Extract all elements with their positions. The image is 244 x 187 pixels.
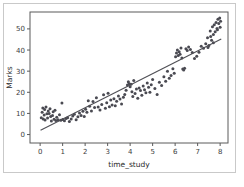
axes-frame <box>30 12 228 143</box>
y-axis-label: Marks <box>5 66 14 88</box>
data-point <box>146 81 149 84</box>
x-tick-label: 8 <box>218 148 222 156</box>
y-tick-label: 20 <box>16 89 25 97</box>
x-tick-labels: 012345678 <box>38 148 222 156</box>
data-point <box>183 67 186 70</box>
x-tick-label: 5 <box>150 148 154 156</box>
data-point <box>46 117 49 120</box>
data-point <box>43 108 46 111</box>
data-point <box>151 78 154 81</box>
data-point <box>193 57 196 60</box>
data-point <box>164 80 167 83</box>
data-point <box>209 35 212 38</box>
data-point <box>136 97 139 100</box>
data-point <box>109 98 112 101</box>
data-point <box>171 67 174 70</box>
data-point <box>115 100 118 103</box>
data-point <box>210 39 213 42</box>
data-point <box>87 99 90 102</box>
data-point <box>120 103 123 106</box>
y-tick-label: 40 <box>16 47 25 55</box>
data-point <box>206 36 209 39</box>
data-point <box>111 103 114 106</box>
data-point <box>219 26 222 29</box>
data-point <box>215 21 218 24</box>
data-point <box>53 109 56 112</box>
data-point <box>112 97 115 100</box>
data-point <box>58 113 61 116</box>
data-point <box>140 94 143 97</box>
data-point <box>147 86 150 89</box>
data-point <box>170 74 173 77</box>
data-point <box>166 70 169 73</box>
data-point <box>216 28 219 31</box>
data-point <box>92 100 95 103</box>
data-point <box>114 104 117 107</box>
data-point-group <box>40 16 222 123</box>
data-point <box>44 106 47 109</box>
regression-line-path <box>41 39 222 130</box>
data-point <box>80 114 83 117</box>
data-point <box>102 93 105 96</box>
data-point <box>50 120 53 123</box>
data-point <box>153 87 156 90</box>
data-point <box>150 83 153 86</box>
y-tick-label: 30 <box>16 68 25 76</box>
data-point <box>139 89 142 92</box>
data-point <box>212 33 215 36</box>
data-point <box>98 109 101 112</box>
data-point <box>144 91 147 94</box>
x-tick-label: 2 <box>83 148 87 156</box>
data-point <box>148 91 151 94</box>
data-point <box>204 42 207 45</box>
data-point <box>60 102 63 105</box>
data-point <box>200 45 203 48</box>
data-point <box>186 49 189 52</box>
data-point <box>179 46 182 49</box>
data-point <box>156 93 159 96</box>
data-point <box>209 30 212 33</box>
data-point <box>214 30 217 33</box>
data-point <box>93 106 96 109</box>
data-point <box>132 79 135 82</box>
data-point <box>160 84 163 87</box>
data-point <box>107 92 110 95</box>
x-tick-label: 0 <box>38 148 42 156</box>
data-point <box>43 113 46 116</box>
data-point <box>158 81 161 84</box>
data-point <box>76 115 79 118</box>
x-tick-label: 4 <box>128 148 133 156</box>
data-point <box>95 96 98 99</box>
data-point <box>108 105 111 108</box>
data-point <box>143 88 146 91</box>
data-point <box>138 87 141 90</box>
data-point <box>135 87 138 90</box>
data-point <box>142 84 145 87</box>
data-point <box>49 107 52 110</box>
data-point <box>81 110 84 113</box>
data-point <box>187 46 190 49</box>
data-point <box>78 112 81 115</box>
data-point <box>130 90 133 93</box>
data-point <box>195 55 198 58</box>
data-point <box>168 77 171 80</box>
figure-canvas: 012345678 01020304050 time_study Marks <box>0 0 244 187</box>
data-point <box>175 51 178 54</box>
data-point <box>104 107 107 110</box>
data-point <box>174 55 177 58</box>
data-point <box>219 20 222 23</box>
data-point <box>75 118 78 121</box>
y-tick-label: 50 <box>16 25 25 33</box>
scatter-plot: 012345678 01020304050 time_study Marks <box>0 0 244 187</box>
data-point <box>90 109 93 112</box>
data-point <box>83 115 86 118</box>
data-point <box>125 89 128 92</box>
data-point <box>97 106 100 109</box>
data-point <box>70 118 73 121</box>
data-point <box>48 112 51 115</box>
data-point <box>162 75 165 78</box>
x-tick-label: 7 <box>195 148 199 156</box>
data-point <box>117 95 120 98</box>
data-point <box>55 116 58 119</box>
tick-marks <box>27 29 220 146</box>
